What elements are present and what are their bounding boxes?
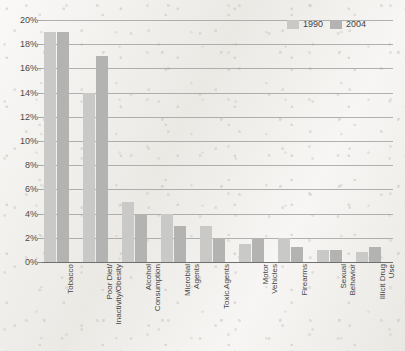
bar-2004 (252, 238, 264, 262)
legend-swatch-1990 (287, 20, 299, 29)
bar-1990 (239, 244, 251, 262)
bar-2004 (213, 238, 225, 262)
bar-2004 (369, 247, 381, 262)
bar-chart: 20%18%16%14%12%10%8%6%4%2%0% TobaccoPoor… (0, 0, 405, 351)
bar-group (315, 20, 354, 262)
bar-group (354, 20, 393, 262)
bar-1990 (161, 214, 173, 262)
plot-area (42, 20, 393, 262)
x-axis-labels: TobaccoPoor Diet/ Inactivity/ObesityAlco… (42, 264, 393, 351)
legend-label: 1990 (303, 19, 323, 29)
x-axis-category-label: Tobacco (66, 264, 75, 348)
y-axis-tick-label: 12% (0, 112, 38, 121)
bar-2004 (96, 56, 108, 262)
y-axis-tick-label: 6% (0, 185, 38, 194)
bar-1990 (44, 32, 56, 262)
x-axis-category-label: Motor Vehicles (261, 264, 279, 348)
bar-group (159, 20, 198, 262)
y-axis-tick-label: 14% (0, 88, 38, 97)
bar-group (42, 20, 81, 262)
bar-2004 (291, 247, 303, 262)
x-axis-category-label: Alcohol Consumption (144, 264, 162, 348)
legend-label: 2004 (346, 19, 366, 29)
y-axis-tick-label: 18% (0, 40, 38, 49)
y-axis-tick-label: 8% (0, 161, 38, 170)
bar-1990 (317, 250, 329, 262)
bars-layer (42, 20, 393, 262)
bar-2004 (135, 214, 147, 262)
bar-1990 (200, 226, 212, 262)
bar-group (120, 20, 159, 262)
x-axis-category-label: Firearms (300, 264, 309, 348)
bar-2004 (174, 226, 186, 262)
legend-swatch-2004 (330, 20, 342, 29)
gridline-0% (42, 262, 393, 263)
bar-group (198, 20, 237, 262)
x-axis-category-label: Illicit Drug Use (378, 264, 396, 348)
bar-1990 (356, 252, 368, 262)
y-axis-tick-label: 20% (0, 16, 38, 25)
y-axis-tick-label: 2% (0, 233, 38, 242)
y-axis-tick-label: 16% (0, 64, 38, 73)
legend-item-1990[interactable]: 1990 (287, 19, 323, 29)
bar-1990 (122, 202, 134, 263)
x-axis-category-label: Sexual Behavior (339, 264, 357, 348)
bar-group (81, 20, 120, 262)
bar-group (237, 20, 276, 262)
x-axis-category-label: Microbial Agents (183, 264, 201, 348)
y-tickmark (38, 262, 42, 263)
y-axis-tick-label: 4% (0, 209, 38, 218)
bar-2004 (330, 250, 342, 262)
chart-legend: 19902004 (287, 19, 366, 29)
y-axis-tick-label: 0% (0, 258, 38, 267)
bar-1990 (83, 93, 95, 262)
bar-1990 (278, 238, 290, 262)
bar-group (276, 20, 315, 262)
x-axis-category-label: Poor Diet/ Inactivity/Obesity (105, 264, 123, 348)
y-axis: 20%18%16%14%12%10%8%6%4%2%0% (0, 0, 38, 351)
y-axis-tick-label: 10% (0, 137, 38, 146)
bar-2004 (57, 32, 69, 262)
legend-item-2004[interactable]: 2004 (330, 19, 366, 29)
x-axis-category-label: Toxic Agents (222, 264, 231, 348)
